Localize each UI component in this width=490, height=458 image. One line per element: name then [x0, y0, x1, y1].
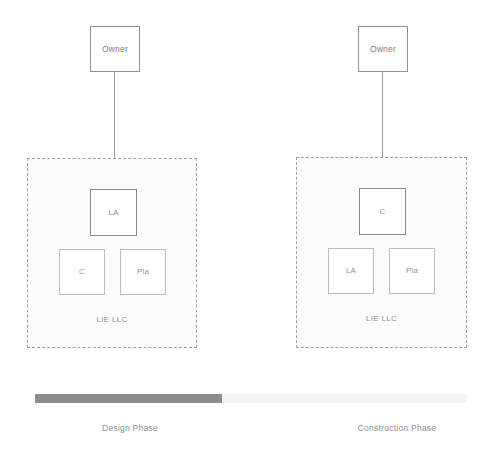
owner-label-design: Owner — [102, 45, 128, 54]
phase-caption-construction: Construction Phase — [322, 423, 472, 433]
role-box-design-left: C — [59, 249, 105, 295]
owner-box-construction: Owner — [358, 26, 408, 72]
role-box-construction-top: C — [359, 188, 406, 235]
group-caption-construction: LIE LLC — [297, 314, 466, 323]
phase-group-construction: C LA Pla LIE LLC — [296, 157, 467, 348]
phase-timeline-segment-construction — [222, 394, 467, 403]
role-label-design-top: LA — [108, 209, 118, 217]
role-box-design-top: LA — [90, 189, 137, 236]
role-label-construction-top: C — [380, 208, 386, 216]
role-box-construction-left: LA — [328, 248, 374, 294]
role-label-construction-left: LA — [346, 267, 356, 275]
role-label-design-right: Pla — [137, 268, 149, 276]
phase-caption-design: Design Phase — [60, 423, 200, 433]
owner-box-design: Owner — [90, 26, 140, 72]
connector-line-design — [114, 72, 115, 158]
role-label-design-left: C — [79, 268, 85, 276]
group-caption-design: LIE LLC — [28, 315, 196, 324]
phase-timeline-segment-design — [35, 394, 222, 403]
connector-line-construction — [382, 72, 383, 157]
role-label-construction-right: Pla — [406, 267, 418, 275]
owner-label-construction: Owner — [370, 45, 396, 54]
org-diagram: Owner LA C Pla LIE LLC Owner C LA Pla LI… — [0, 0, 490, 458]
role-box-design-right: Pla — [120, 249, 166, 295]
phase-group-design: LA C Pla LIE LLC — [27, 158, 197, 348]
phase-timeline-bar — [35, 394, 467, 403]
role-box-construction-right: Pla — [389, 248, 435, 294]
